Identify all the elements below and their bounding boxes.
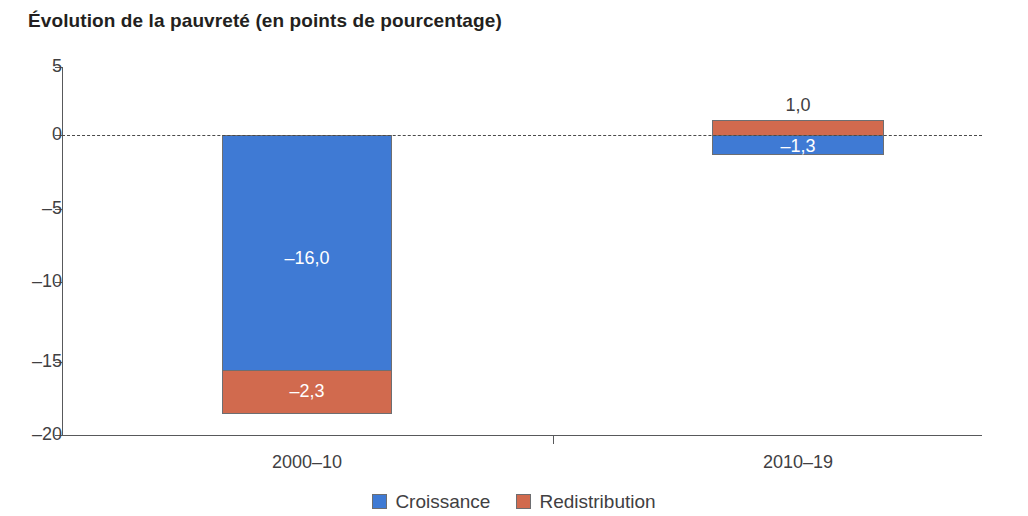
x-tick-mark-center: [553, 435, 554, 444]
chart-legend: Croissance Redistribution: [0, 492, 1028, 511]
y-tick-label-m10: –10: [16, 271, 62, 292]
y-tick-label-5: 5: [16, 56, 62, 77]
legend-item-redistribution[interactable]: Redistribution: [516, 492, 655, 511]
y-axis-line: [62, 67, 63, 436]
legend-swatch-redistribution-icon: [516, 494, 531, 509]
legend-label-redistribution: Redistribution: [539, 492, 655, 511]
bar-value-croissance-2000-10: –16,0: [284, 248, 329, 269]
bar-value-redistribution-2000-10: –2,3: [289, 381, 324, 402]
x-axis-line: [62, 435, 982, 436]
legend-item-croissance[interactable]: Croissance: [372, 492, 490, 511]
zero-reference-line: [62, 135, 982, 136]
bar-segment-redistribution-2010-19[interactable]: [712, 120, 884, 136]
bar-value-redistribution-2010-19: 1,0: [785, 95, 810, 116]
y-tick-label-m5: –5: [16, 198, 62, 219]
legend-swatch-croissance-icon: [372, 494, 387, 509]
x-tick-label-2000-10: 2000–10: [272, 452, 342, 473]
legend-label-croissance: Croissance: [395, 492, 490, 511]
y-tick-label-0: 0: [16, 124, 62, 145]
x-tick-label-2010-19: 2010–19: [763, 452, 833, 473]
bar-value-croissance-2010-19: –1,3: [780, 136, 815, 157]
y-tick-label-m15: –15: [16, 351, 62, 372]
y-tick-label-m20: –20: [16, 424, 62, 445]
plot-area: 5 0 –5 –10 –15 –20 2000–10 2010–19 –16,0…: [0, 0, 1028, 516]
chart-container: Évolution de la pauvreté (en points de p…: [0, 0, 1028, 516]
